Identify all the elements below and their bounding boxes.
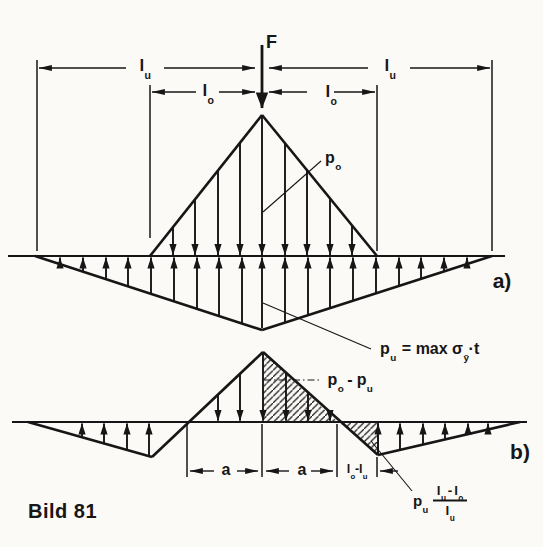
dim-a-right-label: a (298, 462, 307, 478)
po-label: po (325, 150, 341, 166)
dim-lo-left-label: lo (202, 82, 213, 99)
load-distribution-diagram (0, 0, 543, 547)
dim-lo-right-label: lo (325, 83, 336, 100)
pu-fraction-label: pu lu-lo lu (413, 484, 467, 517)
fraction: lu-lo lu (433, 484, 467, 517)
po-minus-pu-label: po-pu (327, 372, 372, 388)
panel-a-label: a) (493, 270, 512, 291)
pu-formula-label: pu= max σȳ·t (380, 341, 479, 357)
figure-stage: F lu lu lo lo po a) pu= max σȳ·t po-pu a… (0, 0, 543, 547)
dim-lo-minus-lu-label: lo-lu (347, 463, 368, 476)
dim-lu-right-label: lu (384, 57, 395, 74)
figure-caption: Bild 81 (28, 501, 97, 521)
dim-a-left-label: a (222, 462, 231, 478)
dim-lu-left-label: lu (139, 57, 150, 74)
panel-b-label: b) (510, 441, 530, 462)
force-label: F (266, 33, 277, 51)
